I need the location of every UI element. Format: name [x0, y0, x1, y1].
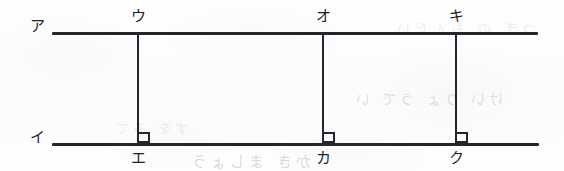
- label-vertex-ku: ク: [449, 151, 464, 166]
- bleed-through-text-4: ずを みて: [112, 118, 188, 137]
- bleed-through-text-1: けい りょ うで い: [352, 88, 503, 108]
- right-angle-marker-3: [457, 132, 468, 143]
- label-vertex-ka: カ: [316, 151, 331, 166]
- right-angle-marker-2: [324, 132, 335, 143]
- bottom-horizontal-line: [52, 143, 539, 146]
- label-line-a: ア: [30, 19, 45, 34]
- label-vertex-ki: キ: [449, 9, 464, 24]
- label-line-i: イ: [30, 130, 45, 145]
- vertical-line-3: [455, 32, 457, 146]
- bleed-through-text-2: かき ましょう: [188, 150, 311, 171]
- vertical-line-2: [322, 32, 324, 146]
- label-vertex-o: オ: [316, 9, 331, 24]
- right-angle-marker-1: [139, 132, 150, 143]
- label-vertex-u: ウ: [131, 9, 146, 24]
- vertical-line-1: [137, 32, 139, 146]
- label-vertex-e: エ: [131, 151, 146, 166]
- geometry-figure-canvas: けい りょ うで い かき ましょう つぎ の もんだい ずを みて ア イ ウ…: [0, 0, 564, 171]
- top-horizontal-line: [52, 32, 538, 35]
